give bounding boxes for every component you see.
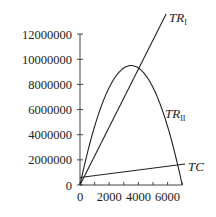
series-line-tc — [80, 164, 185, 177]
y-tick-label: 10000000 — [22, 53, 72, 67]
series-label-tr-ii: TRII — [165, 106, 186, 123]
x-tick-label: 6000 — [155, 190, 180, 204]
y-tick-label: 2000000 — [28, 153, 72, 167]
y-tick-label: 4000000 — [28, 128, 72, 142]
series-group — [80, 14, 185, 185]
y-tick-label: 8000000 — [28, 78, 72, 92]
series-label-tc: TC — [188, 159, 204, 174]
x-axis: 0200040006000 — [77, 182, 182, 204]
chart: 0200000040000006000000800000010000000120… — [0, 0, 216, 217]
series-label-tr-i: TRI — [169, 10, 187, 27]
y-tick-label: 6000000 — [28, 103, 72, 117]
series-labels: TRITRIITC — [165, 10, 204, 174]
y-axis: 0200000040000006000000800000010000000120… — [22, 28, 83, 193]
x-tick-label: 4000 — [126, 190, 151, 204]
y-tick-label: 12000000 — [22, 28, 72, 42]
x-tick-label: 2000 — [97, 190, 122, 204]
x-tick-label: 0 — [77, 190, 83, 204]
series-line-tr-i — [80, 14, 166, 185]
y-tick-label: 0 — [66, 179, 72, 193]
